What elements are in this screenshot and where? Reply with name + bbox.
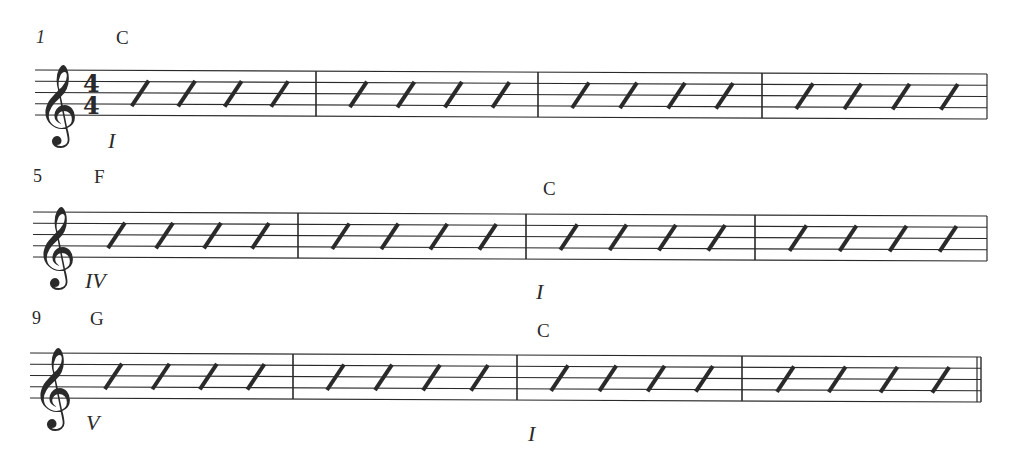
roman-numeral-analysis: V <box>86 412 99 434</box>
chord-symbol: G <box>90 309 104 328</box>
chord-symbol: C <box>537 321 550 340</box>
staff-system-3: 𝄞 <box>0 0 1011 461</box>
treble-clef-icon: 𝄞 <box>32 346 73 431</box>
roman-numeral-analysis: I <box>528 423 535 445</box>
measure-number: 9 <box>32 309 41 327</box>
